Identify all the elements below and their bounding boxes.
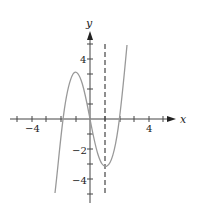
y-axis-label: y	[85, 17, 93, 30]
x-tick-label-4: 4	[146, 123, 152, 134]
y-axis-arrow-icon	[87, 31, 93, 40]
cubic-function-graph: x y −4 4 4 −2 −4	[0, 0, 198, 210]
y-tick-label-neg2: −2	[72, 145, 87, 156]
y-tick-label-neg4: −4	[72, 175, 87, 186]
x-tick-label-neg4: −4	[25, 123, 40, 134]
y-tick-label-4: 4	[80, 54, 86, 65]
x-axis-arrow-icon	[167, 116, 176, 122]
x-axis-label: x	[180, 113, 187, 126]
